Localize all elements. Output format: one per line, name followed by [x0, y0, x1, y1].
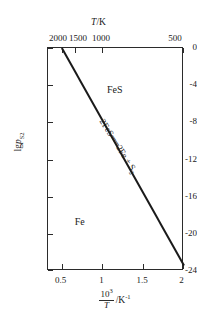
bottom-tick-label-1-5: 1.5	[136, 275, 147, 285]
top-tick-label-1500: 1500	[69, 33, 87, 43]
y-axis-title: lgpS2	[13, 112, 27, 172]
figure-phase-diagram-fes-fe: T/K 2000 1500 1000 500 0 -4 -8 -12 -16 -…	[0, 0, 197, 323]
y-axis-title-italic-p: p	[13, 139, 23, 144]
region-label-fes: FeS	[107, 83, 123, 94]
region-label-fe: Fe	[75, 215, 85, 226]
bottom-tick-label-1: 1	[99, 275, 104, 285]
top-axis-title-rest: /K	[96, 17, 106, 27]
bottom-tick-label-2: 2	[179, 275, 184, 285]
top-tick-label-2000: 2000	[49, 33, 67, 43]
bottom-axis-unit-base: /K	[116, 296, 126, 306]
bottom-axis-denominator: T	[103, 301, 110, 310]
bottom-tick-label-0-5: 0.5	[55, 275, 66, 285]
y-axis-title-sub-2: 2	[18, 132, 25, 135]
bottom-axis-numerator: 103	[99, 288, 113, 299]
bottom-axis-unit: /K-1	[116, 293, 131, 305]
top-tick-label-1000: 1000	[92, 33, 110, 43]
bottom-axis-numerator-exponent: 3	[109, 287, 112, 294]
bottom-axis-title: 103 T /K-1	[47, 288, 183, 311]
y-axis-title-sub-s: S	[18, 136, 25, 140]
plot-area: FeS Fe 2FeS══2Fe + S2	[47, 47, 183, 270]
y-axis-title-prefix: lg	[13, 144, 23, 151]
bottom-axis-fraction: 103 T	[99, 288, 113, 311]
bottom-axis-unit-exponent: -1	[125, 293, 130, 300]
top-axis-title: T/K	[0, 17, 197, 28]
